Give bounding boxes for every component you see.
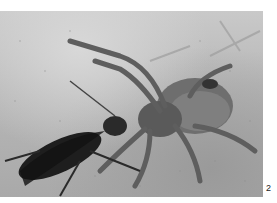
figure-number-label: 2 <box>266 183 271 193</box>
photo-content <box>0 11 263 197</box>
photo-wasp-attacking-spider <box>0 11 263 197</box>
